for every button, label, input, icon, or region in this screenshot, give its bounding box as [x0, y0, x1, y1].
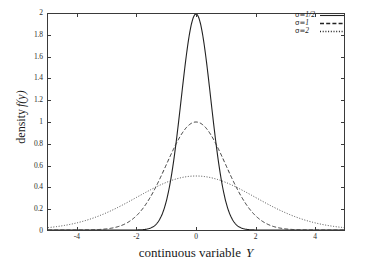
y-tick-label: 1 — [39, 118, 43, 126]
legend-item-3: σ=2 — [295, 28, 344, 35]
y-tick-mark — [47, 187, 51, 188]
y-tick-label: 1.8 — [34, 31, 43, 39]
legend-line-sample — [320, 20, 344, 27]
x-tick-mark — [77, 227, 78, 231]
sigma-symbol: σ= — [295, 27, 305, 35]
y-tick-mark — [47, 100, 51, 101]
y-tick-label: 1.4 — [34, 74, 43, 82]
plot-area — [47, 13, 345, 231]
y-tick-mark — [47, 144, 51, 145]
x-axis-title-variable: Y — [241, 245, 253, 260]
y-tick-mark-right — [341, 78, 345, 79]
x-tick-label: -2 — [126, 233, 146, 241]
y-tick-mark — [47, 166, 51, 167]
y-tick-mark-right — [341, 144, 345, 145]
x-axis-title: continuous variableY — [47, 245, 345, 260]
y-axis-title-text: density — [14, 109, 28, 144]
y-tick-label: 1.6 — [34, 53, 43, 61]
y-tick-label: 0.8 — [34, 140, 43, 148]
y-tick-label: 0.4 — [34, 183, 43, 191]
normal-density-chart: 00.20.40.60.811.21.41.61.82 -4-2024 cont… — [0, 0, 365, 268]
y-tick-mark — [47, 209, 51, 210]
y-tick-label: 2 — [39, 9, 43, 17]
y-tick-mark-right — [341, 100, 345, 101]
y-tick-mark — [47, 78, 51, 79]
density-curve-3 — [48, 176, 344, 228]
x-tick-mark — [315, 227, 316, 231]
legend-line-sample — [320, 28, 344, 35]
y-axis-title-variable: f(y) — [14, 90, 28, 109]
y-tick-mark-right — [341, 166, 345, 167]
legend-label: σ=2 — [295, 27, 320, 36]
y-tick-mark — [47, 57, 51, 58]
x-tick-label: 0 — [186, 233, 206, 241]
y-axis-title: densityf(y) — [14, 52, 28, 182]
legend-item-1: σ=1/2 — [295, 12, 344, 19]
legend-item-2: σ=1 — [295, 20, 344, 27]
x-tick-label: -4 — [67, 233, 87, 241]
x-tick-label: 2 — [246, 233, 266, 241]
x-tick-mark-top — [77, 13, 78, 17]
y-tick-label: 0 — [39, 227, 43, 235]
y-tick-mark-right — [341, 187, 345, 188]
x-axis-title-text: continuous variable — [139, 245, 241, 260]
sigma-value: 2 — [305, 26, 309, 35]
x-tick-mark — [256, 227, 257, 231]
y-tick-mark-right — [341, 209, 345, 210]
y-tick-mark — [47, 35, 51, 36]
x-tick-mark — [196, 227, 197, 231]
legend-line-sample — [320, 12, 344, 19]
y-tick-mark-right — [341, 122, 345, 123]
y-tick-label: 0.6 — [34, 162, 43, 170]
legend: σ=1/2σ=1σ=2 — [293, 10, 345, 38]
x-tick-label: 4 — [305, 233, 325, 241]
x-tick-mark-top — [136, 13, 137, 17]
y-tick-label: 0.2 — [34, 205, 43, 213]
x-tick-mark-top — [256, 13, 257, 17]
y-tick-label: 1.2 — [34, 96, 43, 104]
y-tick-mark-right — [341, 57, 345, 58]
x-tick-mark-top — [196, 13, 197, 17]
curves-svg — [48, 14, 344, 230]
y-tick-mark — [47, 122, 51, 123]
x-tick-mark — [136, 227, 137, 231]
